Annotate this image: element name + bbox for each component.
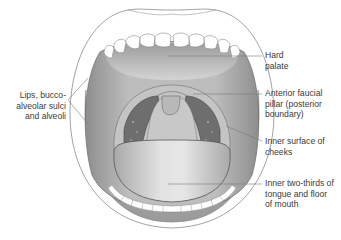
label-hard-palate: Hard palate bbox=[265, 50, 288, 71]
label-anterior-faucial-pillar: Anterior faucial pillar (posterior bound… bbox=[265, 88, 322, 120]
label-inner-surface-cheeks: Inner surface of cheeks bbox=[265, 136, 325, 157]
label-inner-two-thirds-tongue: Inner two-thirds of tongue and floor of … bbox=[265, 178, 334, 210]
label-lips-buccoalveolar: Lips, bucco- alveolar sulci and alveoli bbox=[4, 90, 66, 122]
